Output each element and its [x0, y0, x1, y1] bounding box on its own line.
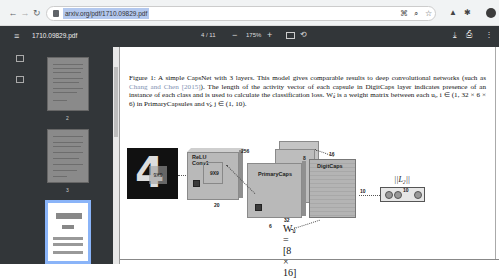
digitcaps-dim: 16 [329, 151, 335, 157]
pdf-page: Figure 1: A simple CapsNet with 3 layers… [119, 47, 499, 264]
pdf-viewer: 2 3 Figure 1: A simple CapsNet with 3 la… [0, 47, 499, 264]
figure-frame-right [495, 47, 496, 259]
citation-link[interactable]: Chang and Chen [2015] [129, 83, 201, 91]
pdf-toolbar: ≡ 1710.09829.pdf 4 / 11 − 175% + ⟲ ⤓ ⎙ ⋮ [0, 26, 499, 47]
url-text[interactable]: arxiv.org/pdf/1710.09829.pdf [63, 8, 149, 19]
primarycaps-label: PrimaryCaps [258, 171, 292, 177]
bookmark-star-icon[interactable]: ☆ [423, 9, 433, 19]
primarycaps-width: 6 [269, 223, 272, 229]
l2-output-count: 10 [403, 187, 409, 193]
extension-icon[interactable]: ▲ [448, 8, 458, 18]
page-thumbnail-2[interactable] [47, 57, 89, 111]
zoom-out-button[interactable]: − [232, 30, 237, 40]
forward-button[interactable]: → [20, 8, 30, 18]
thumbnail-page-number: 2 [66, 115, 69, 121]
more-options-icon[interactable]: ⋮ [485, 30, 493, 39]
connector-line [359, 195, 380, 196]
pdf-file-name: 1710.09829.pdf [32, 32, 77, 39]
input-digit-image: 4 9X9 [127, 148, 178, 199]
zoom-in-button[interactable]: + [267, 30, 272, 40]
conv1-unit [193, 180, 200, 187]
install-app-icon[interactable]: ⌘ [399, 9, 409, 19]
thumbnail-page-number: 3 [66, 187, 69, 193]
outline-view-icon[interactable] [16, 76, 24, 83]
thumbnails-view-icon[interactable] [16, 55, 24, 62]
browser-toolbar: ← → ↻ arxiv.org/pdf/1710.09829.pdf ⌘ ⌕ ☆… [0, 0, 499, 26]
print-icon[interactable]: ⎙ [466, 30, 472, 40]
download-icon[interactable]: ⤓ [453, 30, 457, 40]
digitcaps-output: 10 [360, 188, 366, 194]
back-button[interactable]: ← [8, 8, 18, 18]
reload-button[interactable]: ↻ [32, 8, 42, 18]
address-bar[interactable]: arxiv.org/pdf/1710.09829.pdf ⌘ ⌕ ☆ [46, 6, 436, 21]
page-edge [119, 47, 120, 264]
primarycaps-depth: 8 [303, 155, 306, 161]
l2-norm-label: ||L₂|| [394, 175, 410, 184]
zoom-level-input[interactable]: 175% [246, 32, 261, 38]
primarycaps-side-face [302, 161, 306, 216]
thumbnail-sidebar: 2 3 [0, 47, 113, 264]
menu-icon[interactable]: ≡ [14, 31, 19, 41]
figure-caption: Figure 1: A simple CapsNet with 3 layers… [129, 74, 486, 108]
lock-icon [53, 10, 59, 17]
conv1-kernel-label: 9X9 [210, 170, 219, 176]
page-thumbnail-4-active[interactable] [45, 200, 91, 264]
zoom-icon[interactable]: ⌕ [411, 9, 421, 19]
profile-avatar[interactable] [486, 8, 496, 18]
rotate-icon[interactable]: ⟲ [300, 30, 307, 39]
extensions-puzzle-icon[interactable]: ✱ [462, 8, 472, 18]
figure-frame-bottom [119, 259, 499, 260]
conv1-depth: 256 [241, 148, 249, 154]
weight-equation: Wᵢⱼ = [8 × 16] [283, 223, 296, 278]
digitcaps-label: DigitCaps [317, 163, 343, 169]
primarycaps-unit [255, 204, 262, 211]
page-thumbnail-3[interactable] [47, 129, 89, 183]
fit-page-icon[interactable] [286, 32, 295, 39]
thumbnail-scrollbar-thumb[interactable] [114, 67, 118, 137]
page-indicator[interactable]: 4 / 11 [201, 32, 216, 38]
input-patch: 9X9 [149, 166, 167, 184]
conv1-width: 20 [214, 202, 220, 208]
conv1-side-face [239, 150, 243, 198]
